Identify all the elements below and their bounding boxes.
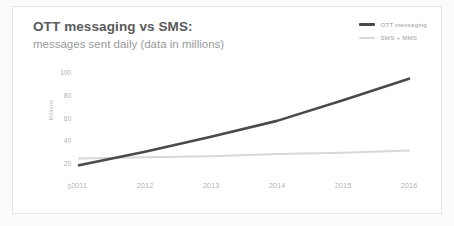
legend-item-label: SMS + MMS [380, 34, 417, 41]
chart-subtitle: messages sent daily (data in millions) [33, 37, 283, 52]
legend-item-label: OTT messaging [380, 21, 427, 28]
legend-swatch-icon [359, 37, 375, 39]
page-title: OTT messaging vs SMS: [33, 19, 283, 35]
legend-swatch-icon [359, 23, 375, 26]
chart-legend: OTT messagingSMS + MMS [359, 21, 427, 41]
title-block: OTT messaging vs SMS: messages sent dail… [33, 19, 283, 52]
plot-area: Millions 020406080100 201120122013201420… [31, 55, 427, 207]
series-lines [31, 55, 427, 207]
legend-item[interactable]: SMS + MMS [359, 34, 427, 41]
chart-card: OTT messaging vs SMS: messages sent dail… [12, 6, 442, 214]
legend-item[interactable]: OTT messaging [359, 21, 427, 28]
chart-screenshot: OTT messaging vs SMS: messages sent dail… [0, 0, 454, 226]
